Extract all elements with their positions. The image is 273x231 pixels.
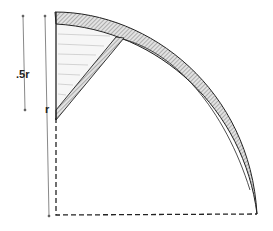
dashed-frame (56, 118, 257, 215)
label-half-r: .5r (16, 68, 29, 80)
quarter-circle-diagram (0, 0, 273, 231)
diagram-canvas: .5r r (0, 0, 273, 231)
dimension-r (44, 15, 50, 217)
label-r: r (45, 103, 49, 115)
dimension-half-r (22, 15, 26, 111)
